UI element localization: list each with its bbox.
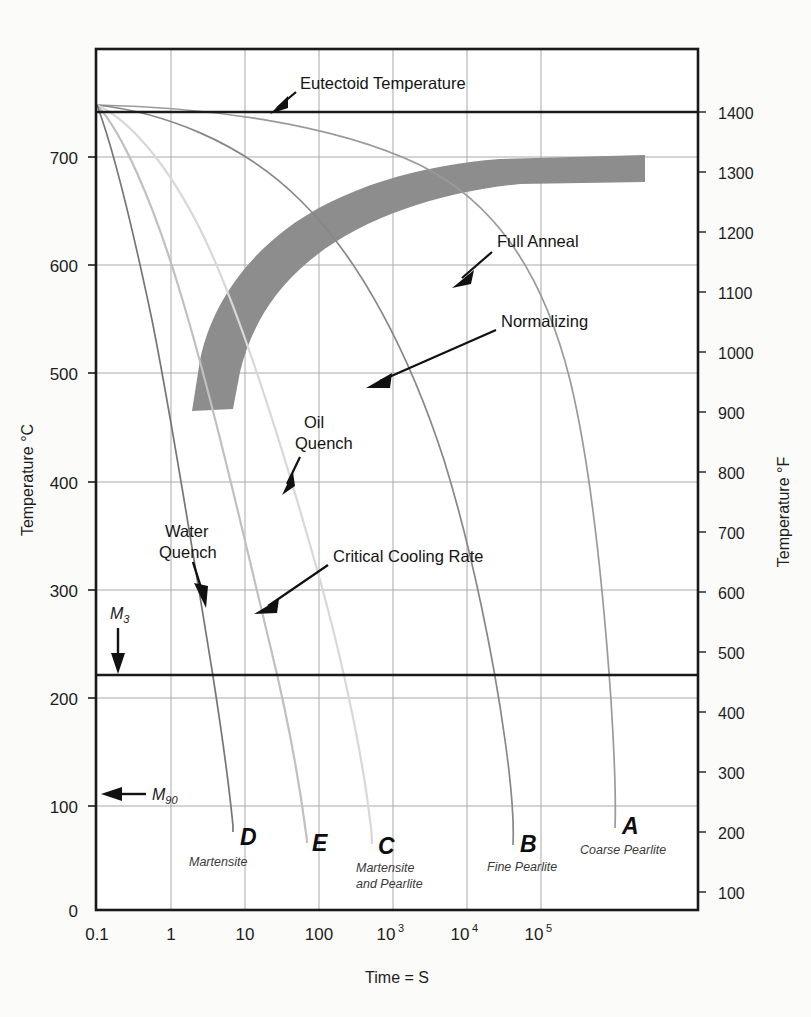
tick-label-200c: 200 xyxy=(50,690,78,709)
tick-label-1100f: 1100 xyxy=(718,285,753,302)
tick-label-1e3s: 10 xyxy=(377,925,396,944)
curve-letter-a: A xyxy=(621,813,639,839)
tick-label-1e5s-exponent: 5 xyxy=(546,922,552,934)
oil-quench-label-line1: Oil xyxy=(304,413,324,431)
curve-letter-d: D xyxy=(240,824,257,850)
tick-label-1e4s: 10 xyxy=(451,925,470,944)
critical-cooling-rate-label: Critical Cooling Rate xyxy=(333,547,483,565)
tick-label-300c: 300 xyxy=(50,582,78,601)
tick-label-0c: 0 xyxy=(69,902,78,921)
phase-label-a: Coarse Pearlite xyxy=(580,843,666,857)
tick-label-100f: 100 xyxy=(718,885,745,902)
tick-label-100s: 100 xyxy=(305,925,333,944)
tick-label-500f: 500 xyxy=(718,645,745,662)
tick-label-10s: 10 xyxy=(236,925,255,944)
left-axis-title: Temperature °C xyxy=(19,424,36,536)
tick-label-400c: 400 xyxy=(50,474,78,493)
cct-chart-svg: 700 600 500 400 300 200 100 0 1400 1300 … xyxy=(0,0,811,1017)
tick-label-600f: 600 xyxy=(718,585,745,602)
tick-label-1e4s-exponent: 4 xyxy=(472,922,478,934)
tick-label-400f: 400 xyxy=(718,705,745,722)
tick-label-1400f: 1400 xyxy=(718,105,754,122)
tick-label-1200f: 1200 xyxy=(718,225,754,242)
tick-label-1s: 1 xyxy=(166,925,175,944)
water-quench-label-line1: Water xyxy=(165,522,209,540)
right-axis-title: Temperature °F xyxy=(775,457,792,568)
tick-label-1000f: 1000 xyxy=(718,345,754,362)
tick-label-300f: 300 xyxy=(718,765,745,782)
tick-label-800f: 800 xyxy=(718,465,745,482)
tick-label-700f: 700 xyxy=(718,525,745,542)
phase-label-b: Fine Pearlite xyxy=(487,860,557,874)
bottom-axis-title: Time = S xyxy=(365,969,429,986)
oil-quench-label-line2: Quench xyxy=(295,434,353,452)
tick-label-700c: 700 xyxy=(50,149,78,168)
curve-letter-e: E xyxy=(312,830,328,856)
tick-label-600c: 600 xyxy=(50,257,78,276)
phase-label-c-line2: and Pearlite xyxy=(356,877,423,891)
tick-label-200f: 200 xyxy=(718,825,745,842)
curve-letter-b: B xyxy=(520,831,537,857)
tick-label-900f: 900 xyxy=(718,405,745,422)
tick-label-500c: 500 xyxy=(50,365,78,384)
tick-label-1e5s: 10 xyxy=(525,925,544,944)
normalizing-label: Normalizing xyxy=(501,312,588,330)
cct-diagram-figure: 700 600 500 400 300 200 100 0 1400 1300 … xyxy=(0,0,811,1017)
full-anneal-label: Full Anneal xyxy=(497,232,579,250)
tick-label-0p1s: 0.1 xyxy=(85,925,109,944)
eutectoid-temperature-label: Eutectoid Temperature xyxy=(300,74,466,92)
phase-label-d: Martensite xyxy=(189,855,247,869)
curve-letter-c: C xyxy=(378,833,395,859)
tick-label-1e3s-exponent: 3 xyxy=(398,922,404,934)
water-quench-label-line2: Quench xyxy=(159,543,217,561)
tick-label-1300f: 1300 xyxy=(718,165,754,182)
phase-label-c-line1: Martensite xyxy=(356,861,414,875)
tick-label-100c: 100 xyxy=(50,798,78,817)
